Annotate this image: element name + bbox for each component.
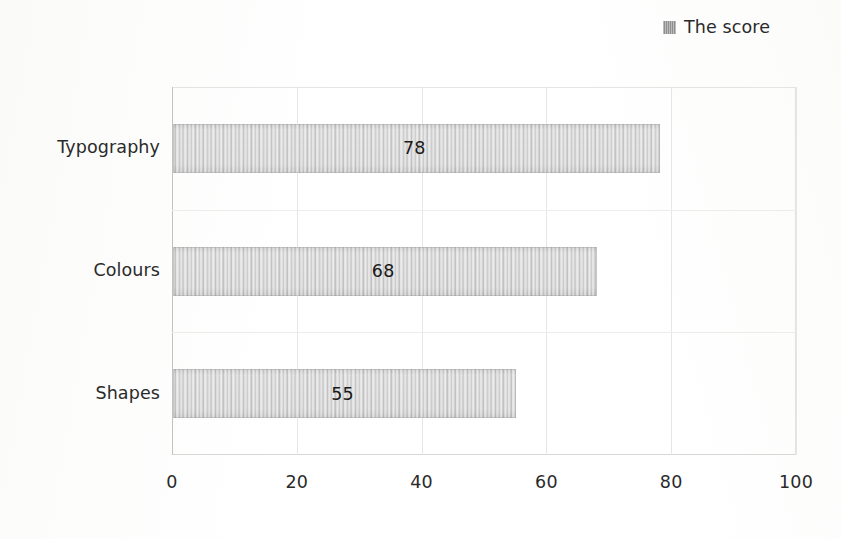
x-axis-tick-labels: 020406080100: [0, 472, 841, 502]
bar-value-label-colours: 68: [372, 261, 395, 281]
x-axis-tick-100: 100: [779, 472, 813, 492]
chart-plot-area: 786855: [172, 87, 796, 455]
y-axis-label-typography: Typography: [0, 137, 160, 157]
x-axis-tick-20: 20: [285, 472, 308, 492]
plot-border-bottom: [172, 454, 796, 455]
gridline-category-1: [172, 210, 796, 211]
chart-legend: The score: [663, 17, 770, 37]
gridline-x-100: [796, 87, 797, 455]
bar-value-label-shapes: 55: [331, 384, 354, 404]
bar-colours: 68: [173, 247, 597, 296]
x-axis-tick-40: 40: [410, 472, 433, 492]
legend-label-the-score: The score: [684, 17, 770, 37]
y-axis-label-colours: Colours: [0, 260, 160, 280]
gridline-category-2: [172, 332, 796, 333]
x-axis-tick-0: 0: [166, 472, 177, 492]
bar-shapes: 55: [173, 369, 516, 418]
x-axis-tick-80: 80: [660, 472, 683, 492]
gridline-x-80: [671, 87, 672, 455]
bar-typography: 78: [173, 124, 660, 173]
legend-swatch-icon: [663, 21, 676, 34]
bar-value-label-typography: 78: [403, 138, 426, 158]
plot-border-top: [172, 87, 796, 88]
y-axis-category-labels: TypographyColoursShapes: [0, 87, 160, 455]
x-axis-tick-60: 60: [535, 472, 558, 492]
y-axis-label-shapes: Shapes: [0, 383, 160, 403]
